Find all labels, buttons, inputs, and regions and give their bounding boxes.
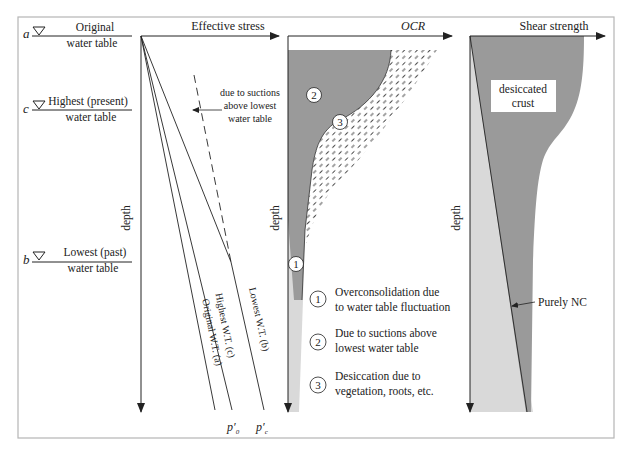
water-table-triangle-icon (33, 252, 45, 260)
svg-text:above lowest: above lowest (224, 100, 277, 111)
zone-marker-3: 3 (333, 115, 348, 130)
water-table-letter: b (23, 252, 30, 267)
ocr-panel: OCR depth 2 3 1 1 Overconsolidation due … (269, 19, 452, 412)
water-table-ocr-diagram: a Original water table c Highest (presen… (0, 0, 628, 453)
legend-item-2: 2 Due to suctions above lowest water tab… (310, 327, 437, 354)
water-table-labels: a Original water table c Highest (presen… (23, 21, 132, 274)
svg-text:2: 2 (311, 89, 317, 101)
svg-text:Original: Original (76, 21, 114, 34)
svg-text:1: 1 (293, 258, 299, 270)
svg-text:Desiccation due to: Desiccation due to (335, 370, 421, 382)
svg-text:vegetation, roots, etc.: vegetation, roots, etc. (335, 385, 434, 398)
svg-text:1: 1 (315, 293, 321, 305)
svg-text:crust: crust (512, 97, 535, 109)
legend-item-1: 1 Overconsolidation due to water table f… (310, 286, 451, 313)
water-table-highest: c Highest (present) water table (23, 95, 132, 123)
svg-text:to water table fluctuation: to water table fluctuation (335, 301, 451, 313)
water-table-letter: c (23, 101, 29, 116)
svg-text:due to suctions: due to suctions (220, 87, 280, 98)
svg-text:Overconsolidation due: Overconsolidation due (335, 286, 439, 298)
svg-text:Due to suctions above: Due to suctions above (335, 327, 437, 339)
nc-label: Purely NC (538, 296, 587, 309)
water-table-letter: a (23, 26, 30, 41)
svg-text:Lowest (past): Lowest (past) (64, 246, 127, 259)
water-table-original: a Original water table (23, 21, 132, 49)
svg-text:water table: water table (66, 111, 117, 123)
svg-text:water table: water table (68, 262, 119, 274)
water-table-lowest: b Lowest (past) water table (23, 246, 132, 274)
y-axis-label: depth (450, 205, 463, 231)
svg-text:desiccated: desiccated (499, 83, 547, 95)
water-table-triangle-icon (33, 27, 45, 35)
water-table-triangle-icon (33, 101, 45, 109)
svg-text:3: 3 (315, 379, 321, 391)
p0-label: p′0 (226, 420, 240, 436)
y-axis-label: depth (120, 205, 133, 231)
pc-label: p′c (255, 420, 269, 436)
ocr-legend: 1 Overconsolidation due to water table f… (310, 286, 451, 398)
svg-text:water table: water table (67, 37, 118, 49)
svg-text:2: 2 (315, 336, 321, 348)
x-axis-label: Shear strength (520, 19, 589, 33)
original-wt-line (141, 36, 215, 410)
shear-strength-panel: Shear strength depth desiccated crust Pu… (450, 19, 605, 412)
svg-text:lowest water table: lowest water table (335, 342, 419, 354)
x-axis-label: OCR (401, 19, 426, 33)
svg-text:3: 3 (337, 116, 343, 128)
y-axis-label: depth (269, 205, 282, 231)
x-axis-label: Effective stress (191, 19, 265, 33)
svg-text:Highest (present): Highest (present) (48, 95, 128, 108)
lowest-wt-label: Lowest W.T. (b) (246, 286, 272, 352)
effective-stress-panel: Effective stress depth due to suctions a… (120, 19, 280, 436)
legend-item-3: 3 Desiccation due to vegetation, roots, … (310, 370, 434, 398)
zone-marker-1: 1 (289, 257, 304, 272)
zone-marker-2: 2 (307, 88, 322, 103)
svg-text:water table: water table (228, 113, 273, 124)
